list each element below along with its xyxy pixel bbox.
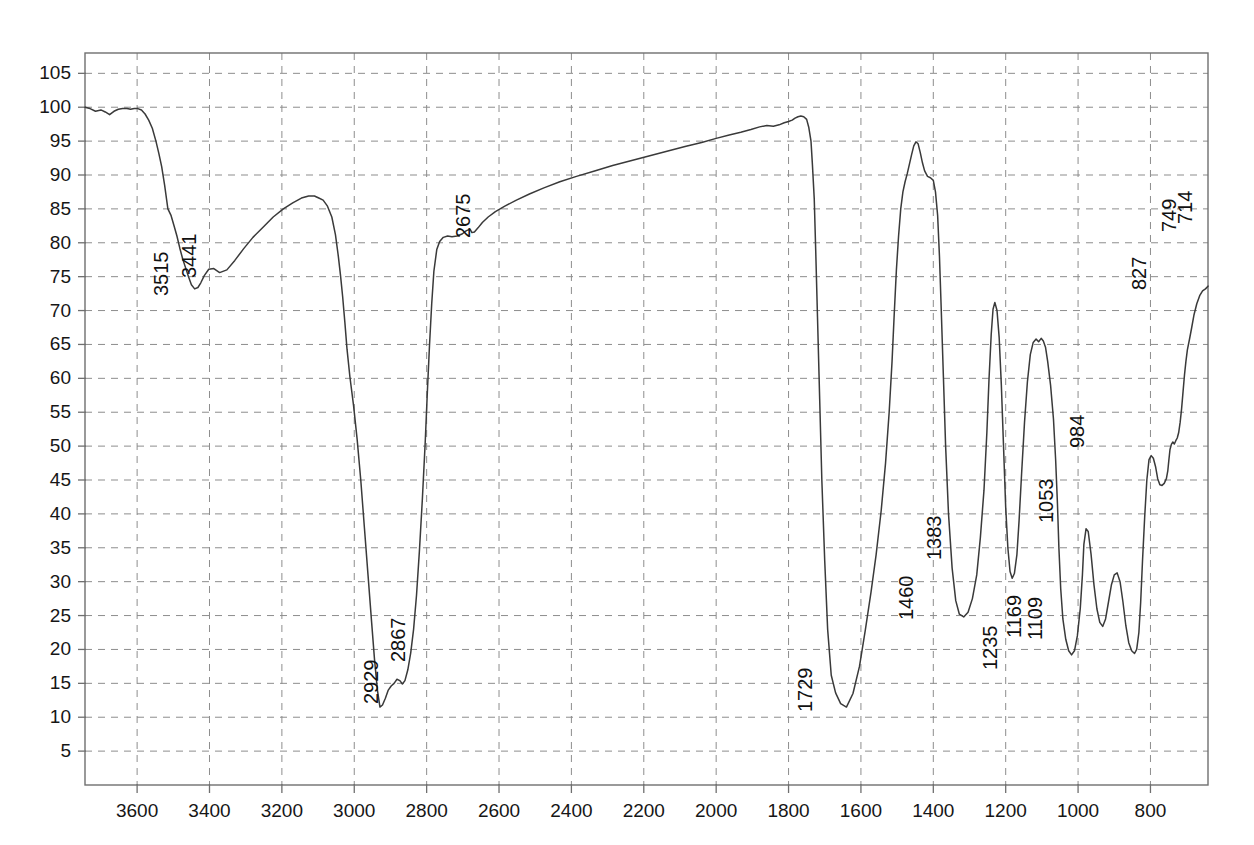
spectrum-plot-area: 5101520253035404550556065707580859095100… <box>0 0 1254 845</box>
y-tick-label: 40 <box>50 503 71 524</box>
x-tick-label: 1800 <box>767 800 809 821</box>
peak-label-1169: 1169 <box>1003 595 1025 638</box>
peak-label-3441: 3441 <box>178 234 200 279</box>
y-tick-label: 60 <box>50 367 71 388</box>
peak-label-827: 827 <box>1128 257 1150 290</box>
y-tick-label: 50 <box>50 435 71 456</box>
y-tick-label: 35 <box>50 537 71 558</box>
peak-label-1729: 1729 <box>794 668 816 713</box>
x-tick-label: 1000 <box>1057 800 1099 821</box>
plot-frame <box>85 53 1208 785</box>
x-tick-label: 1400 <box>912 800 954 821</box>
y-tick-label: 85 <box>50 198 71 219</box>
peak-label-1460: 1460 <box>895 576 917 621</box>
x-tick-label: 2200 <box>623 800 665 821</box>
peak-label-984: 984 <box>1066 415 1088 448</box>
peak-label-2929: 2929 <box>360 660 382 705</box>
x-tick-label: 3200 <box>261 800 303 821</box>
y-tick-label: 45 <box>50 469 71 490</box>
x-tick-label: 3400 <box>188 800 230 821</box>
x-axis-tick-labels: 3600340032003000280026002400220020001800… <box>116 800 1166 821</box>
x-tick-label: 3000 <box>333 800 375 821</box>
y-tick-label: 95 <box>50 130 71 151</box>
y-tick-label: 70 <box>50 300 71 321</box>
peak-label-3515: 3515 <box>150 252 172 297</box>
gridlines <box>85 53 1208 785</box>
x-tick-label: 3600 <box>116 800 158 821</box>
tick-marks <box>78 73 1150 793</box>
peak-label-714: 714 <box>1174 191 1196 224</box>
peak-label-1109: 1109 <box>1024 597 1046 640</box>
x-tick-label: 1200 <box>985 800 1027 821</box>
y-tick-label: 75 <box>50 266 71 287</box>
peak-label-1383: 1383 <box>923 516 945 561</box>
ir-spectrum-chart: 5101520253035404550556065707580859095100… <box>0 0 1254 845</box>
x-tick-label: 800 <box>1135 800 1167 821</box>
y-tick-label: 15 <box>50 672 71 693</box>
y-tick-label: 55 <box>50 401 71 422</box>
y-tick-label: 20 <box>50 638 71 659</box>
y-tick-label: 25 <box>50 605 71 626</box>
peak-label-1053: 1053 <box>1035 479 1057 524</box>
x-tick-label: 2800 <box>406 800 448 821</box>
y-tick-label: 105 <box>39 62 71 83</box>
y-tick-label: 10 <box>50 706 71 727</box>
y-tick-label: 30 <box>50 571 71 592</box>
y-tick-label: 100 <box>39 96 71 117</box>
y-tick-label: 65 <box>50 333 71 354</box>
y-tick-label: 80 <box>50 232 71 253</box>
x-tick-label: 1600 <box>840 800 882 821</box>
x-tick-label: 2000 <box>695 800 737 821</box>
x-tick-label: 2400 <box>550 800 592 821</box>
y-tick-label: 5 <box>60 740 71 761</box>
peak-label-2867: 2867 <box>387 618 409 663</box>
peak-label-2675: 2675 <box>452 194 474 239</box>
y-axis-tick-labels: 5101520253035404550556065707580859095100… <box>39 62 71 761</box>
peak-annotations: 3515344126752929286717291460138312351169… <box>150 191 1196 712</box>
peak-label-1235: 1235 <box>979 626 1001 671</box>
y-tick-label: 90 <box>50 164 71 185</box>
x-tick-label: 2600 <box>478 800 520 821</box>
